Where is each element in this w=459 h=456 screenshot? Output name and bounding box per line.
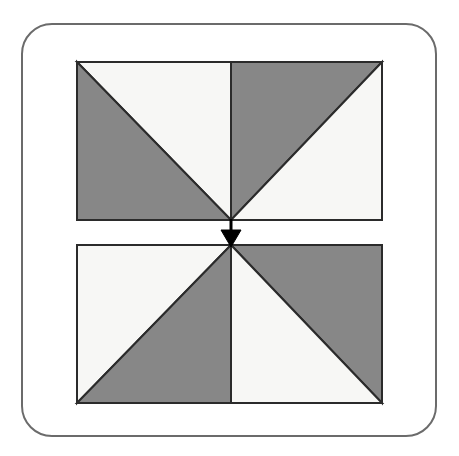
top-pinwheel-rectangle — [77, 62, 382, 220]
figure-root — [0, 0, 459, 456]
bottom-pinwheel-rectangle — [77, 245, 382, 403]
geometry-figure — [0, 0, 459, 456]
